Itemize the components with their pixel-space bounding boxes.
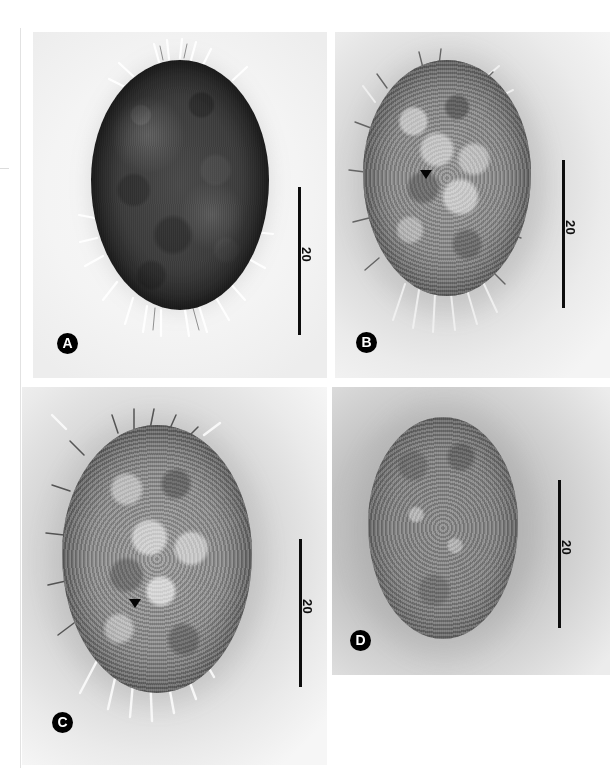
panel-a: 20 A [33,32,327,378]
page-margin-tick [0,168,9,169]
panel-d: 20 D [332,387,610,675]
specimen-b [363,60,531,296]
panel-a-scalebar-label: 20 [299,247,314,262]
panel-c-scalebar-label: 20 [300,599,315,614]
panel-c-arrowhead [129,599,141,608]
page-margin-line [20,28,21,768]
panel-b: 20 B [335,32,610,378]
specimen-a [91,60,269,310]
specimen-d [368,417,518,639]
specimen-b-texture [363,60,531,296]
specimen-c [62,425,252,693]
figure-plate: 20 A [0,0,610,773]
specimen-a-texture [91,60,269,310]
panel-c: 20 C [22,387,327,765]
panel-c-letter: C [52,712,73,733]
specimen-d-texture [368,417,518,639]
specimen-c-texture [62,425,252,693]
panel-b-arrowhead [420,170,432,179]
panel-b-scalebar-label: 20 [563,220,578,235]
panel-d-letter: D [350,630,371,651]
panel-d-scalebar-label: 20 [559,540,574,555]
panel-b-letter: B [356,332,377,353]
panel-a-letter: A [57,333,78,354]
